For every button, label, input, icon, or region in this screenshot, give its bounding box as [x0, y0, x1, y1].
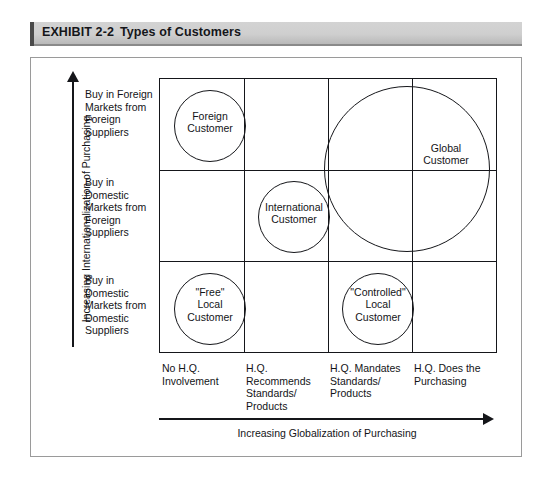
exhibit-header-bar: EXHIBIT 2-2Types of Customers — [30, 22, 522, 46]
exhibit-title: EXHIBIT 2-2Types of Customers — [42, 25, 241, 39]
bubble-foreign-customer — [174, 90, 246, 162]
grid-horizontal-line-2 — [160, 261, 496, 262]
row-label-domestic-markets-domestic-suppliers: Buy in Domestic Markets from Domestic Su… — [85, 274, 163, 337]
exhibit-title-text: Types of Customers — [114, 25, 241, 39]
col-label-hq-does-purchasing: H.Q. Does the Purchasing — [414, 362, 506, 387]
col-label-no-hq-involvement: No H.Q. Involvement — [162, 362, 246, 387]
col-label-hq-mandates: H.Q. Mandates Standards/ Products — [330, 362, 422, 400]
x-axis-arrow-shaft — [159, 418, 487, 420]
exhibit-header-accent — [30, 22, 34, 46]
exhibit-number: EXHIBIT 2-2 — [42, 25, 114, 39]
exhibit-page: EXHIBIT 2-2Types of Customers Increasing… — [0, 0, 549, 485]
bubble-controlled-local-customer — [342, 273, 414, 345]
row-label-foreign-markets: Buy in Foreign Markets from Foreign Supp… — [85, 88, 163, 138]
bubble-international-customer — [258, 181, 330, 253]
x-axis-label: Increasing Globalization of Purchasing — [159, 427, 495, 439]
col-label-hq-recommends: H.Q. Recommends Standards/ Products — [246, 362, 330, 412]
y-axis-arrow-shaft — [72, 79, 74, 347]
y-axis-arrow-head-icon — [67, 71, 79, 82]
row-label-domestic-markets-foreign-suppliers: Buy in Domestic Markets from Foreign Sup… — [85, 176, 163, 239]
diagram-frame: Increasing Internationalization of Purch… — [30, 57, 522, 457]
bubble-global-customer — [324, 86, 490, 252]
x-axis-arrow-head-icon — [483, 413, 494, 425]
bubble-free-local-customer — [174, 273, 246, 345]
